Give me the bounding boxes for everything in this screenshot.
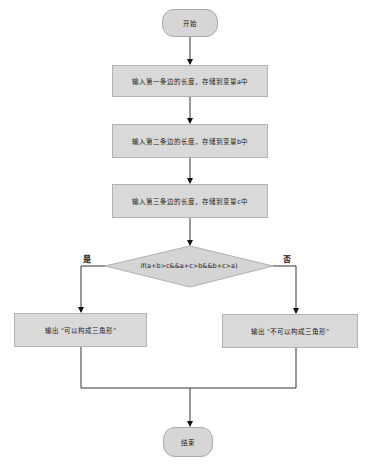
output-no-process: 输出 “不可以构成三角形” (222, 314, 358, 348)
end-label: 结束 (181, 437, 195, 447)
output-no-label: 输出 “不可以构成三角形” (251, 326, 330, 336)
input-b-process: 输入第二条边的长度，存储到变量b中 (112, 124, 268, 158)
yes-branch-label: 是 (83, 253, 91, 264)
edge-output-yes-to-merge (81, 347, 190, 388)
end-terminator: 结束 (163, 427, 213, 457)
input-b-label: 输入第二条边的长度，存储到变量b中 (132, 136, 248, 146)
edge-decision-to-output-yes (81, 266, 105, 312)
input-c-process: 输入第三条边的长度，存储到变量c中 (112, 184, 268, 218)
decision-label: if(a+b>c&&a+c>b&&b+c>a) (105, 259, 273, 273)
no-branch-label: 否 (283, 253, 291, 264)
input-a-process: 输入第一条边的长度，存储到变量a中 (112, 65, 268, 97)
start-label: 开始 (183, 18, 197, 28)
edge-output-no-to-merge (190, 348, 296, 388)
output-yes-process: 输出 “可以构成三角形” (14, 313, 147, 347)
input-c-label: 输入第三条边的长度，存储到变量c中 (132, 196, 248, 206)
output-yes-label: 输出 “可以构成三角形” (45, 325, 117, 335)
start-terminator: 开始 (162, 9, 218, 37)
edge-decision-to-output-no (273, 266, 296, 313)
input-a-label: 输入第一条边的长度，存储到变量a中 (132, 76, 248, 86)
